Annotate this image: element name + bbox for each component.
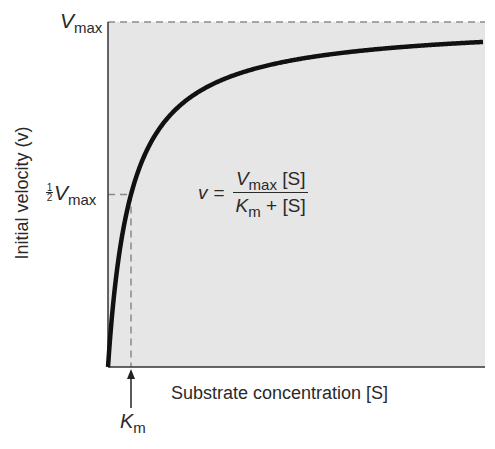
half-vmax-tick-label: 12Vmax — [46, 181, 96, 205]
michaelis-menten-chart — [0, 0, 495, 449]
half-denominator: 2 — [46, 193, 53, 202]
num-v: V — [236, 168, 249, 189]
one-half-fraction: 12 — [46, 183, 53, 202]
equation-v: v — [198, 182, 208, 204]
vmax-subscript: max — [74, 19, 102, 36]
km-symbol: K — [120, 410, 133, 432]
x-axis-label: Substrate concentration [S] — [171, 383, 388, 404]
vmax-subscript: max — [68, 191, 96, 208]
num-max: max — [249, 176, 277, 193]
den-plus-s: + [S] — [261, 195, 306, 216]
den-k: K — [236, 195, 249, 216]
den-m: m — [248, 203, 261, 220]
km-tick-label: Km — [120, 410, 146, 433]
vmax-symbol: V — [54, 181, 68, 204]
num-s: [S] — [277, 168, 306, 189]
equation-fraction: Vmax [S] Km + [S] — [233, 168, 309, 217]
equation-equals: = — [214, 182, 225, 204]
vmax-symbol: V — [60, 9, 74, 32]
vmax-tick-label: Vmax — [60, 9, 102, 33]
km-subscript: m — [133, 419, 146, 436]
equation-denominator: Km + [S] — [233, 193, 309, 217]
km-arrow-head-icon — [127, 369, 135, 379]
equation-numerator: Vmax [S] — [233, 168, 309, 193]
michaelis-menten-equation: v = Vmax [S] Km + [S] — [198, 168, 309, 217]
y-axis-label: Initial velocity (v) — [12, 126, 33, 259]
half-numerator: 1 — [46, 183, 53, 192]
